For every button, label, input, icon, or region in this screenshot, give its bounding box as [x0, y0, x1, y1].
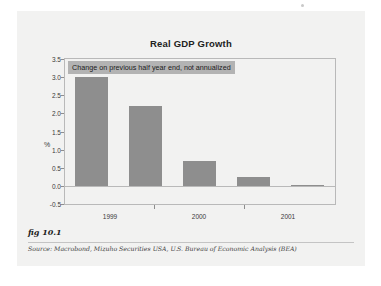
caption-divider — [28, 242, 354, 243]
y-axis-tick-label: 2.5 — [52, 92, 61, 99]
bar — [129, 106, 162, 186]
source-text: Macrobond, Mizuho Securities USA, U.S. B… — [54, 245, 297, 252]
x-axis-tick-labels: 199920002001 — [64, 213, 336, 225]
y-axis-title: % — [44, 141, 50, 148]
figure-panel: Real GDP Growth 3.53.02.52.01.51.00.50.0… — [17, 11, 365, 266]
y-axis-tick-label: 1.5 — [52, 128, 61, 135]
y-axis-tick-label: 3.0 — [52, 74, 61, 81]
y-axis-tick-label: 0.5 — [52, 164, 61, 171]
bar — [183, 161, 216, 186]
bar — [237, 177, 270, 186]
y-axis-tick-label: 1.0 — [52, 146, 61, 153]
y-axis-tick-label: 2.0 — [52, 110, 61, 117]
page-speck — [301, 4, 304, 7]
x-axis-tick-mark — [244, 205, 245, 209]
y-axis-tick-label: 0.0 — [52, 182, 61, 189]
x-axis-tick-mark — [154, 205, 155, 209]
y-axis-tick-labels: 3.53.02.52.01.51.00.50.0-0.5 — [37, 58, 61, 205]
chart-area: Real GDP Growth 3.53.02.52.01.51.00.50.0… — [17, 11, 365, 223]
x-axis-tick-marks — [64, 205, 336, 210]
y-axis-tick-label: 3.5 — [52, 56, 61, 63]
y-axis-tick-label: -0.5 — [50, 201, 61, 208]
x-axis-tick-label: 1999 — [103, 213, 117, 220]
bar — [291, 185, 324, 186]
plot-frame — [64, 58, 336, 205]
x-axis-tick-label: 2001 — [281, 213, 295, 220]
chart-title: Real GDP Growth — [17, 38, 365, 49]
zero-baseline — [65, 186, 335, 187]
chart-annotation: Change on previous half year end, not an… — [68, 61, 235, 74]
x-axis-tick-label: 2000 — [192, 213, 206, 220]
plot-inner — [65, 59, 335, 204]
figure-number-label: fig 10.1 — [28, 227, 62, 237]
bar — [75, 77, 108, 186]
source-prefix: Source: — [28, 245, 52, 252]
source-line: Source: Macrobond, Mizuho Securities USA… — [28, 245, 297, 252]
figure-caption: fig 10.1 Source: Macrobond, Mizuho Secur… — [28, 225, 354, 261]
